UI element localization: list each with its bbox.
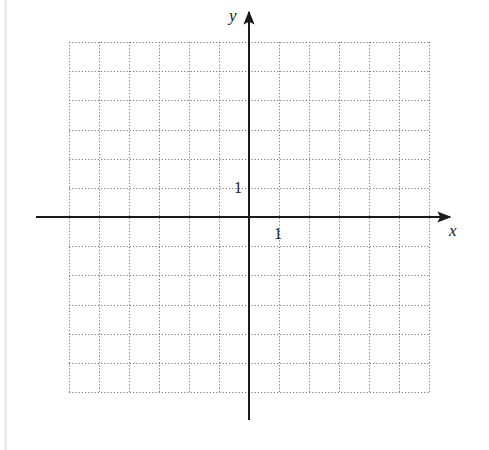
x-tick-label: 1 [274,225,282,242]
y-tick-label: 1 [234,179,242,196]
coordinate-plane: x y 1 1 [0,0,489,450]
x-axis-label: x [448,221,457,240]
y-axis-label: y [227,6,237,25]
